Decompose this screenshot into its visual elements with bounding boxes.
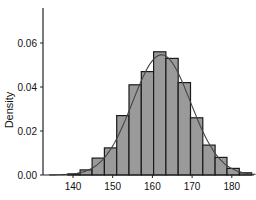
x-tick-label: 180 <box>223 181 240 192</box>
y-axis-ticks: 0.000.020.040.06 <box>18 38 43 181</box>
x-tick-label: 170 <box>184 181 201 192</box>
histogram-bar <box>166 58 178 175</box>
histogram-bars <box>68 52 252 175</box>
y-tick-label: 0.04 <box>18 82 38 93</box>
y-tick-label: 0.00 <box>18 170 38 181</box>
x-tick-label: 160 <box>144 181 161 192</box>
x-tick-label: 140 <box>65 181 82 192</box>
histogram-chart: 0.000.020.040.06 140150160170180 Density <box>0 0 256 200</box>
x-tick-label: 150 <box>104 181 121 192</box>
x-axis-ticks: 140150160170180 <box>65 175 241 192</box>
y-tick-label: 0.02 <box>18 126 38 137</box>
y-axis-label: Density <box>3 91 15 128</box>
histogram-bar <box>104 148 116 175</box>
histogram-bar <box>141 72 153 175</box>
y-tick-label: 0.06 <box>18 38 38 49</box>
histogram-bar <box>154 52 166 175</box>
histogram-bar <box>129 85 141 175</box>
